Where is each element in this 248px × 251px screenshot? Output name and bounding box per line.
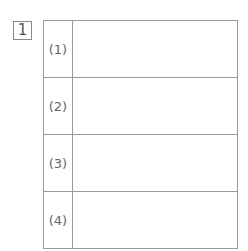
- row-label: (3): [44, 135, 73, 192]
- table-row: (2): [44, 78, 238, 135]
- answer-cell[interactable]: [73, 192, 238, 249]
- answer-table: (1) (2) (3) (4): [43, 20, 238, 249]
- table-row: (4): [44, 192, 238, 249]
- row-label: (2): [44, 78, 73, 135]
- table-row: (1): [44, 21, 238, 78]
- answer-cell[interactable]: [73, 78, 238, 135]
- answer-cell[interactable]: [73, 135, 238, 192]
- row-label: (4): [44, 192, 73, 249]
- question-number-box: 1: [13, 21, 32, 40]
- answer-cell[interactable]: [73, 21, 238, 78]
- table-row: (3): [44, 135, 238, 192]
- row-label: (1): [44, 21, 73, 78]
